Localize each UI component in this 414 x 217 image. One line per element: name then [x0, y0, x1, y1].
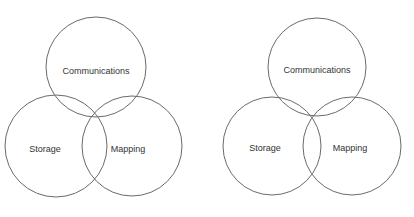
venn-diagram-right: Communications Storage Mapping [223, 18, 401, 195]
label-storage: Storage [249, 143, 281, 153]
label-mapping: Mapping [111, 144, 146, 154]
label-communications: Communications [283, 65, 351, 75]
diagram-canvas: Communications Storage Mapping Communica… [0, 0, 414, 217]
label-mapping: Mapping [333, 143, 368, 153]
label-storage: Storage [29, 144, 61, 154]
venn-diagram-left: Communications Storage Mapping [5, 17, 182, 197]
label-communications: Communications [62, 66, 130, 76]
